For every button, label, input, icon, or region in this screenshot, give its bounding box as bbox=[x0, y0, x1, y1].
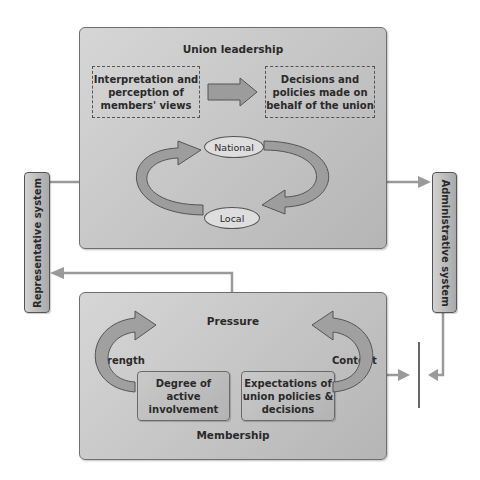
administrative-system-label: Administrative system bbox=[439, 179, 450, 306]
strength-arc bbox=[95, 311, 156, 392]
right-block-arrow-icon bbox=[208, 78, 257, 106]
representative-system-box: Representative system bbox=[24, 172, 50, 313]
administrative-system-box: Administrative system bbox=[432, 172, 457, 313]
representative-system-label: Representative system bbox=[32, 177, 43, 307]
cycle-arc-left bbox=[136, 141, 203, 215]
national-node: National bbox=[204, 136, 264, 158]
local-node: Local bbox=[204, 207, 260, 229]
cycle-arc-right bbox=[262, 141, 329, 214]
content-arc bbox=[312, 311, 373, 392]
arrows-overlay bbox=[0, 0, 480, 480]
